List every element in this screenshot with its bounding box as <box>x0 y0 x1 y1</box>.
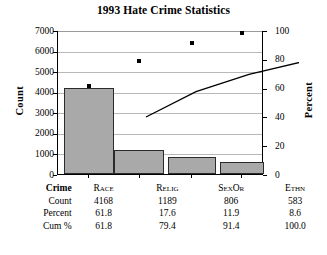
pareto-chart-figure: 1993 Hate Crime Statistics Count Percent… <box>0 0 327 255</box>
row-label-cum-percent: Cum % <box>0 220 72 233</box>
ytick-label-3000: 3000 <box>35 109 54 119</box>
chart-title: 1993 Hate Crime Statistics <box>0 4 327 16</box>
cell-percent-ethn: 8.6 <box>263 207 327 220</box>
tickmark-right-40 <box>263 117 267 118</box>
y2tick-label-60: 60 <box>275 84 285 94</box>
tickmark-right-0 <box>263 175 267 176</box>
tickmark-right-100 <box>263 31 267 32</box>
ytick-label-6000: 6000 <box>35 47 54 57</box>
cell-percent-race: 61.8 <box>72 207 136 220</box>
gridline-7000 <box>58 31 262 32</box>
bar-race <box>64 88 114 174</box>
table-row: Crime Race Relig SexOr Ethn <box>0 182 327 195</box>
data-table: Crime Race Relig SexOr Ethn Count 4168 1… <box>0 182 327 232</box>
tickmark-right-20 <box>263 146 267 147</box>
cell-crime-race: Race <box>72 182 136 195</box>
table-row: Cum % 61.8 79.4 91.4 100.0 <box>0 220 327 233</box>
cell-count-ethn: 583 <box>263 195 327 208</box>
xtick-sexor <box>191 175 192 178</box>
row-label-crime: Crime <box>0 182 72 195</box>
cell-percent-sexor: 11.9 <box>199 207 263 220</box>
marker-sexor <box>190 41 194 45</box>
xtick-ethn <box>241 175 242 178</box>
cell-cum-percent-relig: 79.4 <box>135 220 199 233</box>
ytick-label-2000: 2000 <box>35 129 54 139</box>
y2tick-label-80: 80 <box>275 55 285 65</box>
tickmark-right-80 <box>263 60 267 61</box>
gridline-6000 <box>58 52 262 53</box>
row-label-count: Count <box>0 195 72 208</box>
ytick-label-4000: 4000 <box>35 88 54 98</box>
plot-area <box>57 31 263 175</box>
cell-count-relig: 1189 <box>135 195 199 208</box>
y2tick-label-20: 20 <box>275 142 285 152</box>
ytick-label-0: 0 <box>49 171 54 181</box>
y2tick-label-100: 100 <box>275 27 289 37</box>
y2tick-label-0: 0 <box>275 171 280 181</box>
tickmark-right-60 <box>263 89 267 90</box>
cell-crime-relig: Relig <box>135 182 199 195</box>
cell-cum-percent-ethn: 100.0 <box>263 220 327 233</box>
ytick-label-7000: 7000 <box>35 27 54 37</box>
y-axis-left-title: Count <box>14 86 25 116</box>
xtick-race <box>88 175 89 178</box>
table-row: Percent 61.8 17.6 11.9 8.6 <box>0 207 327 220</box>
cell-crime-sexor: SexOr <box>199 182 263 195</box>
marker-relig <box>137 59 141 63</box>
cell-count-sexor: 806 <box>199 195 263 208</box>
cell-percent-relig: 17.6 <box>135 207 199 220</box>
table-row: Count 4168 1189 806 583 <box>0 195 327 208</box>
cell-cum-percent-sexor: 91.4 <box>199 220 263 233</box>
row-label-percent: Percent <box>0 207 72 220</box>
ytick-label-1000: 1000 <box>35 150 54 160</box>
xtick-relig <box>139 175 140 178</box>
ytick-label-5000: 5000 <box>35 68 54 78</box>
cell-count-race: 4168 <box>72 195 136 208</box>
cell-crime-ethn: Ethn <box>263 182 327 195</box>
marker-race <box>87 84 91 88</box>
marker-ethn <box>240 31 244 35</box>
y2tick-label-40: 40 <box>275 113 285 123</box>
cell-cum-percent-race: 61.8 <box>72 220 136 233</box>
